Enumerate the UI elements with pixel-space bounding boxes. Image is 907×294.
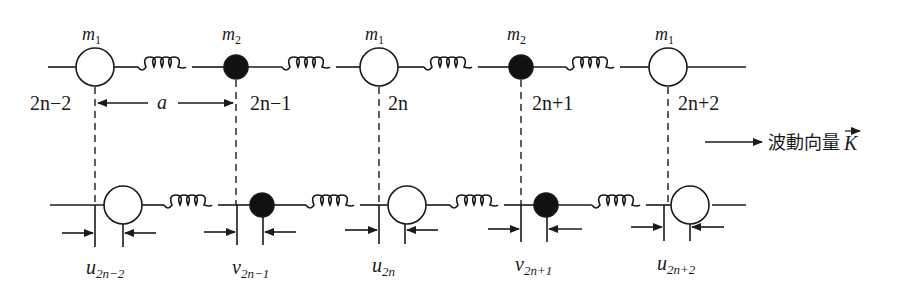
site-index-label: 2n+1 bbox=[532, 92, 573, 114]
spring-icon bbox=[450, 195, 498, 208]
displacement-labels: u2n−2 v2n−1 u2n v2n+1 u2n+2 bbox=[86, 252, 696, 281]
spring-icon bbox=[306, 195, 354, 208]
equilibrium-guides bbox=[95, 80, 668, 205]
svg-text:m1: m1 bbox=[82, 24, 101, 47]
mass-m1-open bbox=[360, 48, 398, 86]
mass-m1-open bbox=[104, 186, 142, 224]
spring-icon bbox=[566, 57, 614, 70]
svg-text:m1: m1 bbox=[655, 24, 674, 47]
diagram-canvas: m1 m2 m1 m2 m1 2n−2 2n−1 2n 2n+1 2n+2 a … bbox=[0, 0, 907, 294]
site-index-label: 2n bbox=[388, 92, 408, 114]
svg-text:波動向量: 波動向量 bbox=[768, 132, 840, 153]
lattice-spacing-label: a bbox=[157, 91, 167, 113]
diatomic-chain-diagram: m1 m2 m1 m2 m1 2n−2 2n−1 2n 2n+1 2n+2 a … bbox=[0, 0, 907, 294]
svg-text:u2n−2: u2n−2 bbox=[86, 256, 125, 281]
mass-label: m bbox=[655, 24, 668, 44]
svg-text:m2: m2 bbox=[507, 24, 526, 47]
site-index-label: 2n+2 bbox=[678, 92, 719, 114]
wave-vector-label: 波動向量 K bbox=[768, 131, 860, 154]
spring-icon bbox=[282, 57, 330, 70]
mass-label: m bbox=[507, 24, 520, 44]
mass-label: m bbox=[365, 24, 378, 44]
svg-text:u2n: u2n bbox=[372, 254, 395, 279]
spring-icon bbox=[592, 195, 640, 208]
top-chain bbox=[48, 48, 746, 86]
mass-label: m bbox=[82, 24, 95, 44]
svg-text:v2n+1: v2n+1 bbox=[515, 253, 552, 278]
svg-text:u2n+2: u2n+2 bbox=[657, 252, 696, 277]
site-index-label: 2n−1 bbox=[250, 92, 291, 114]
mass-m2-filled bbox=[534, 193, 558, 217]
mass-m1-open bbox=[649, 48, 687, 86]
svg-text:m1: m1 bbox=[365, 24, 384, 47]
svg-text:K: K bbox=[843, 132, 859, 154]
mass-m1-open bbox=[388, 186, 426, 224]
svg-text:m2: m2 bbox=[222, 24, 241, 47]
mass-label: m bbox=[222, 24, 235, 44]
spring-icon bbox=[138, 57, 186, 70]
mass-m1-open bbox=[671, 186, 709, 224]
svg-text:v2n−1: v2n−1 bbox=[232, 256, 269, 281]
mass-m2-filled bbox=[509, 55, 533, 79]
mass-m2-filled bbox=[250, 193, 274, 217]
bottom-chain bbox=[50, 186, 746, 224]
spring-icon bbox=[424, 57, 472, 70]
mass-labels: m1 m2 m1 m2 m1 bbox=[82, 24, 674, 47]
spring-icon bbox=[164, 195, 212, 208]
mass-m2-filled bbox=[224, 55, 248, 79]
site-index-label: 2n−2 bbox=[30, 92, 71, 114]
mass-m1-open bbox=[76, 48, 114, 86]
